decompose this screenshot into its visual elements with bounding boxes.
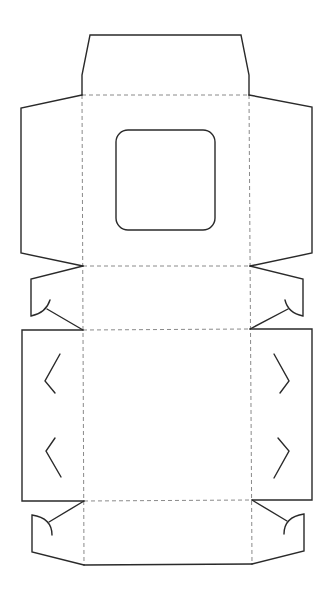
cut-line: [31, 266, 83, 316]
cut-line: [250, 309, 288, 329]
cut-line: [32, 515, 84, 565]
cut-line: [250, 266, 303, 316]
right-slot-lower: [274, 438, 289, 478]
cut-line: [21, 95, 83, 266]
box-dieline-diagram: [0, 0, 331, 596]
cut-line: [22, 330, 84, 501]
cut-line: [252, 500, 287, 521]
left-slot-lower: [46, 438, 61, 477]
cut-line: [249, 95, 312, 266]
cut-line: [252, 514, 304, 564]
cut-line: [47, 309, 83, 330]
fold-line: [83, 329, 250, 330]
fold-lines: [82, 95, 252, 565]
cut-line: [84, 564, 252, 565]
display-window-cutout: [116, 130, 215, 230]
lock-slots: [45, 354, 289, 478]
cut-line: [250, 329, 312, 500]
cut-line: [82, 35, 249, 95]
cut-line: [49, 501, 84, 522]
right-slot-upper: [274, 354, 289, 393]
left-slot-upper: [45, 354, 60, 393]
fold-line: [84, 500, 252, 501]
cut-lines: [21, 35, 312, 565]
